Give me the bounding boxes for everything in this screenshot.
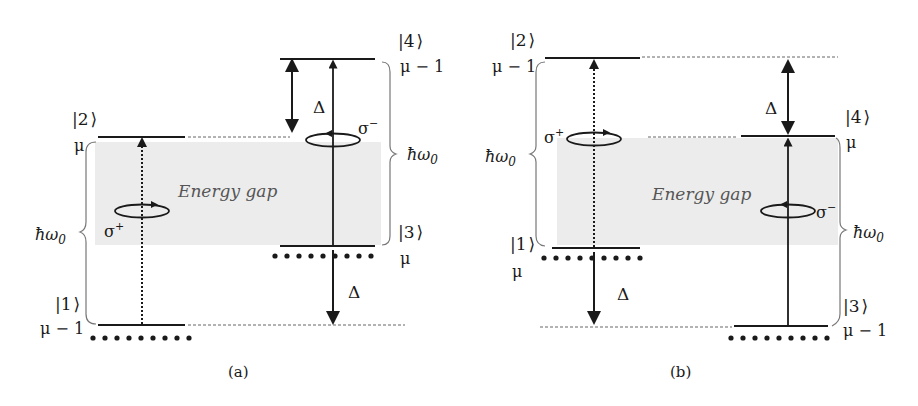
sigma-minus-label: σ− [358, 117, 378, 138]
detuning-label: Δ [617, 284, 629, 304]
ket-label-2: |2⟩ [510, 30, 535, 50]
panel-caption: (b) [670, 363, 691, 381]
occupancy-label: μ − 1 [40, 319, 84, 338]
detuning-label: Δ [313, 97, 325, 117]
occupancy-label: μ − 1 [492, 57, 536, 76]
electron-dots [541, 255, 642, 260]
ket-label-4: |4⟩ [845, 107, 870, 127]
detuning-label: Δ [348, 282, 360, 302]
ket-label-2: |2⟩ [72, 109, 97, 129]
ket-label-1: |1⟩ [510, 234, 535, 254]
electron-dots [272, 253, 373, 258]
energy-gap-label: Energy gap [651, 184, 751, 204]
energy-gap-label: Energy gap [177, 181, 277, 201]
photon-energy-label: ħω0 [407, 145, 438, 167]
occupancy-label: μ − 1 [843, 321, 887, 340]
panel-b: Energy gap [485, 30, 887, 381]
photon-energy-label: ħω0 [485, 147, 516, 169]
ket-label-4: |4⟩ [398, 31, 423, 51]
electron-dots [728, 335, 829, 340]
electron-dots [90, 335, 191, 340]
detuning-label: Δ [765, 98, 777, 118]
brace-icon [80, 142, 96, 324]
panel-a: Energy gap [35, 31, 444, 381]
photon-energy-label: ħω0 [853, 223, 884, 245]
rotation-arrowhead-icon [603, 129, 610, 136]
brace-icon [382, 62, 396, 245]
ket-label-1: |1⟩ [55, 294, 80, 314]
occupancy-label: μ − 1 [400, 57, 444, 76]
energy-level-diagram: Energy gap [0, 0, 918, 406]
occupancy-label: μ [74, 136, 84, 155]
occupancy-label: μ [400, 249, 410, 268]
ket-label-3: |3⟩ [843, 296, 868, 316]
photon-energy-label: ħω0 [35, 225, 66, 247]
panel-caption: (a) [228, 363, 249, 381]
ket-label-3: |3⟩ [398, 222, 423, 242]
occupancy-label: μ [846, 133, 856, 152]
brace-icon [530, 62, 545, 246]
rotation-arrowhead-icon [325, 130, 332, 137]
occupancy-label: μ [512, 262, 522, 281]
